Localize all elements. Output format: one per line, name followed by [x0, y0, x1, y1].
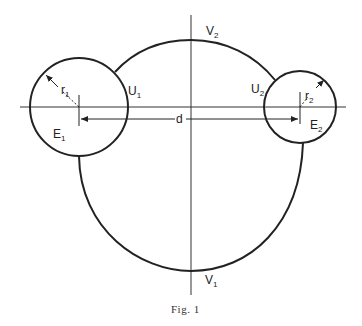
- label-e2: E2: [310, 118, 323, 134]
- label-r2: r2: [305, 89, 314, 105]
- label-u1: U1: [128, 84, 142, 100]
- label-u2: U2: [251, 82, 265, 98]
- label-v2: V2: [206, 24, 219, 40]
- figure-caption: Fig. 1: [171, 303, 200, 315]
- label-d: d: [176, 112, 183, 126]
- label-r1: r1: [61, 83, 70, 99]
- upper-arc-v2: [115, 40, 275, 80]
- radius-r1-arrow: [46, 75, 58, 87]
- label-e1: E1: [53, 127, 66, 143]
- figure-canvas: d V2 V1 U1 U2 E1 E2 r1 r2 Fig. 1: [0, 0, 362, 326]
- radius-r2-arrow: [316, 80, 324, 88]
- label-v1: V1: [205, 273, 218, 289]
